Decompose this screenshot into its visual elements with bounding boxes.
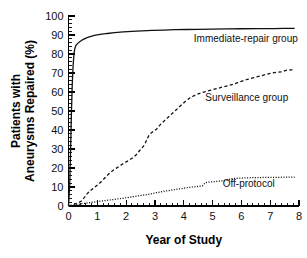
y-tick-label: 40 bbox=[51, 124, 63, 136]
chart-canvas: 0102030405060708090100 012345678 Immedia… bbox=[0, 0, 307, 258]
x-tick-label: 1 bbox=[94, 210, 100, 222]
y-tick-label: 90 bbox=[51, 29, 63, 41]
x-tick-label: 7 bbox=[267, 210, 273, 222]
x-tick-label: 2 bbox=[123, 210, 129, 222]
y-tick-label: 60 bbox=[51, 86, 63, 98]
y-tick-label: 0 bbox=[57, 200, 63, 212]
x-tick-label: 8 bbox=[296, 210, 302, 222]
y-tick-label: 30 bbox=[51, 143, 63, 155]
y-tick-label: 20 bbox=[51, 162, 63, 174]
y-axis-title-line-1: Patients with bbox=[9, 74, 23, 148]
x-tick-label: 3 bbox=[152, 210, 158, 222]
y-tick-label: 10 bbox=[51, 181, 63, 193]
x-tick-label: 5 bbox=[210, 210, 216, 222]
y-tick-label: 50 bbox=[51, 105, 63, 117]
y-tick-label: 70 bbox=[51, 67, 63, 79]
series-label-surveillance-group: Surveillance group bbox=[205, 92, 288, 103]
y-axis-tick-labels: 0102030405060708090100 bbox=[45, 10, 63, 212]
x-tick-label: 4 bbox=[181, 210, 187, 222]
x-tick-label: 6 bbox=[238, 210, 244, 222]
y-tick-label: 80 bbox=[51, 48, 63, 60]
y-tick-label: 100 bbox=[45, 10, 63, 22]
x-axis-tick-labels: 012345678 bbox=[65, 210, 302, 222]
series-annotation-labels: Immediate-repair groupSurveillance group… bbox=[194, 33, 298, 189]
chart-figure: 0102030405060708090100 012345678 Immedia… bbox=[0, 0, 307, 258]
x-tick-label: 0 bbox=[65, 210, 71, 222]
series-label-immediate-repair-group: Immediate-repair group bbox=[194, 33, 298, 44]
x-axis-title: Year of Study bbox=[145, 233, 222, 247]
y-axis-title-line-2: Aneurysms Repaired (%) bbox=[23, 40, 37, 182]
series-label-off-protocol: Off-protocol bbox=[223, 178, 275, 189]
